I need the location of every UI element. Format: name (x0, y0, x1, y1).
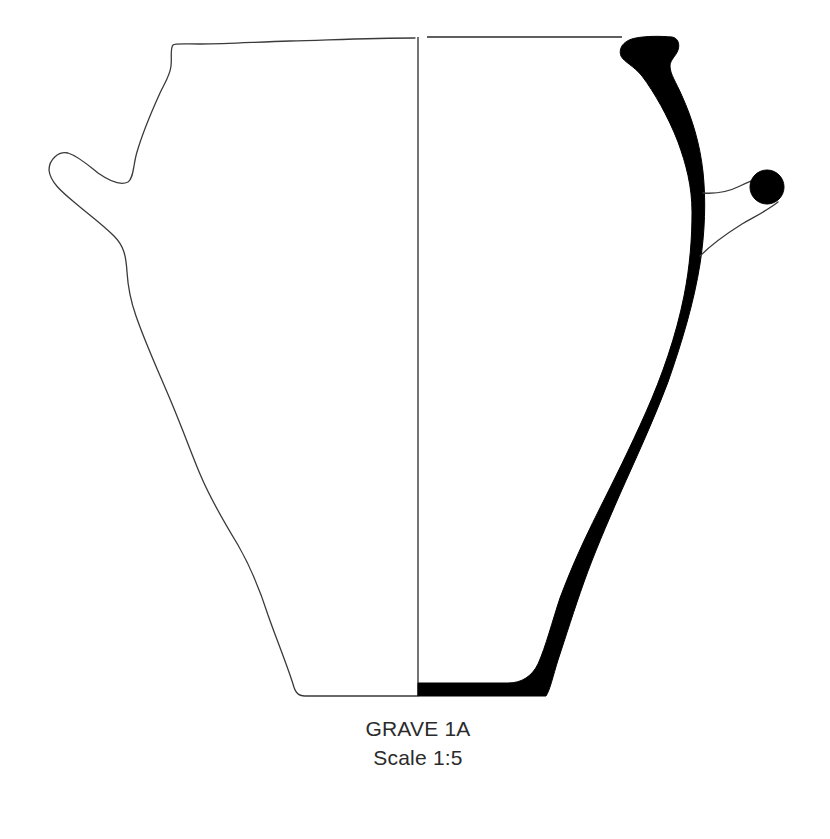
vessel-exterior-outline (49, 38, 418, 696)
figure-caption-title: GRAVE 1A (0, 717, 830, 741)
vessel-drawing (0, 0, 830, 839)
figure-caption-scale: Scale 1:5 (0, 746, 830, 770)
vessel-section-profile (418, 36, 705, 696)
handle-section (750, 170, 784, 204)
handle-loop-lower (700, 202, 778, 256)
